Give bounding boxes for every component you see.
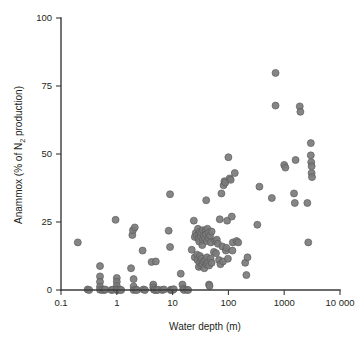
data-point	[213, 250, 220, 257]
data-point	[291, 199, 298, 206]
data-point	[244, 254, 251, 261]
data-point	[231, 170, 238, 177]
y-axis-title: Anammox (% of N2 production)	[13, 86, 27, 224]
data-point	[228, 213, 235, 220]
data-point	[235, 239, 242, 246]
data-point	[152, 258, 159, 265]
data-point	[128, 265, 135, 272]
y-axis-tick-label: 25	[41, 216, 52, 227]
data-point	[203, 197, 210, 204]
data-point	[307, 140, 314, 147]
data-point	[307, 152, 314, 159]
data-point	[272, 69, 279, 76]
data-point	[190, 217, 197, 224]
data-point	[291, 190, 298, 197]
data-point	[224, 255, 231, 262]
data-point	[131, 224, 138, 231]
data-point	[206, 282, 213, 289]
x-axis-tick-label: 10	[167, 297, 178, 308]
data-point	[282, 164, 289, 171]
data-point	[229, 247, 236, 254]
data-point	[272, 102, 279, 109]
data-point	[304, 199, 311, 206]
data-point	[297, 108, 304, 115]
y-axis-tick-label: 50	[41, 148, 52, 159]
data-point	[167, 191, 174, 198]
data-point	[227, 176, 234, 183]
scatter-plot: 02550751000.1110100100010 000 Water dept…	[0, 0, 364, 338]
data-point	[97, 263, 104, 270]
data-point	[74, 239, 81, 246]
y-axis-tick-label: 100	[36, 12, 52, 23]
chart-figure: 02550751000.1110100100010 000 Water dept…	[0, 0, 364, 338]
data-point	[130, 276, 137, 283]
y-axis-title-lead: Anammox (% of N	[13, 143, 24, 224]
data-point	[243, 272, 250, 279]
x-axis-title: Water depth (m)	[169, 321, 241, 332]
data-point	[218, 190, 225, 197]
data-point	[170, 286, 177, 293]
axis-labels-layer: 02550751000.1110100100010 000	[36, 12, 354, 308]
data-point	[308, 163, 315, 170]
data-point	[208, 228, 215, 235]
x-axis-tick-label: 100	[220, 297, 236, 308]
data-point	[305, 239, 312, 246]
x-axis-tick-label: 1000	[274, 297, 295, 308]
x-axis-tick-label: 1	[114, 297, 119, 308]
data-point	[309, 174, 316, 181]
y-axis-tick-label: 0	[47, 284, 52, 295]
data-point	[167, 244, 174, 251]
data-point	[208, 259, 215, 266]
data-point	[225, 154, 232, 161]
x-axis-tick-label: 10 000	[325, 297, 354, 308]
y-axis-tick-label: 75	[41, 80, 52, 91]
data-point	[254, 221, 261, 228]
data-point	[177, 270, 184, 277]
x-axis-tick-label: 0.1	[54, 297, 67, 308]
data-point	[165, 227, 172, 234]
data-point	[216, 216, 223, 223]
data-point	[268, 195, 275, 202]
y-axis-title-tail: production)	[13, 86, 24, 139]
data-point	[112, 216, 119, 223]
data-point	[256, 183, 263, 190]
data-point	[292, 156, 299, 163]
data-point	[139, 247, 146, 254]
data-points-layer	[74, 69, 315, 293]
